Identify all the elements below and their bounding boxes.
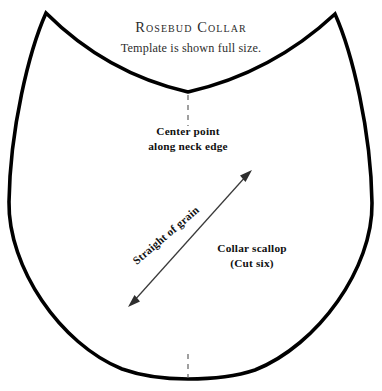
page-subtitle: Template is shown full size. — [0, 40, 382, 56]
collar-scallop-line-1: Collar scallop — [155, 241, 349, 256]
collar-scallop-annotation: Collar scallop (Cut six) — [155, 241, 349, 271]
title-block: Rosebud Collar Template is shown full si… — [0, 18, 382, 56]
collar-scallop-line-2: (Cut six) — [155, 256, 349, 271]
grain-arrow — [128, 170, 252, 307]
collar-outline-path — [9, 13, 372, 379]
center-point-annotation: Center point along neck edge — [91, 124, 285, 154]
page-title: Rosebud Collar — [0, 18, 382, 37]
center-point-line-2: along neck edge — [91, 139, 285, 154]
pattern-sheet: Rosebud Collar Template is shown full si… — [0, 0, 382, 391]
center-point-line-1: Center point — [91, 124, 285, 139]
collar-pattern-drawing — [0, 0, 382, 391]
